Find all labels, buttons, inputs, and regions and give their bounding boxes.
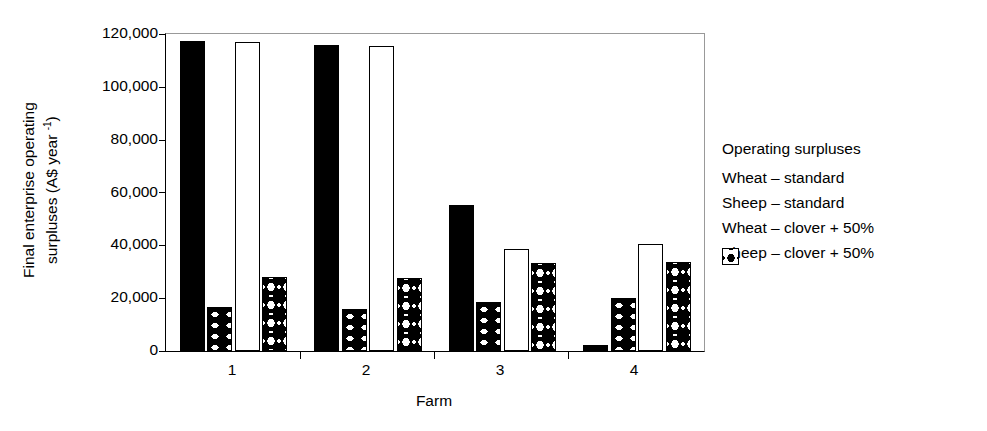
bar-farm-2-series-3 (369, 46, 394, 351)
y-tick-mark (159, 298, 166, 299)
bar-farm-4-series-4 (666, 262, 691, 351)
x-tick-mark (568, 351, 569, 359)
legend-item-sheep-clover[interactable]: Sheep – clover + 50% (722, 240, 980, 265)
plot-area (165, 33, 705, 352)
x-tick-label-farm-4: 4 (630, 361, 639, 379)
bar-farm-3-series-1 (449, 205, 474, 351)
legend-item-wheat-standard[interactable]: Wheat – standard (722, 165, 980, 190)
bar-farm-3-series-3 (504, 249, 529, 351)
x-tick-label-farm-1: 1 (228, 361, 237, 379)
bar-farm-1-series-2 (207, 307, 232, 351)
y-tick-label: 100,000 (58, 77, 158, 95)
y-tick-mark (159, 245, 166, 246)
bar-farm-2-series-1 (314, 45, 339, 351)
bar-farm-3-series-2 (476, 302, 501, 351)
y-axis-title-line1: Final enterprise operating (19, 102, 38, 278)
y-axis-tick-labels: 0 20,000 40,000 60,000 80,000 100,000 12… (58, 0, 158, 431)
bar-farm-1-series-3 (235, 42, 260, 351)
legend: Operating surpluses Wheat – standard She… (722, 140, 980, 265)
chart-figure: Final enterprise operating surpluses (A$… (0, 0, 987, 431)
x-axis-title: Farm (165, 392, 703, 410)
bar-farm-1-series-1 (180, 41, 205, 351)
legend-item-wheat-clover[interactable]: Wheat – clover + 50% (722, 215, 980, 240)
y-tick-label: 40,000 (58, 235, 158, 253)
y-axis-title-exponent: -1 (42, 121, 53, 130)
legend-item-label: Wheat – clover + 50% (722, 219, 874, 237)
y-tick-label: 20,000 (58, 288, 158, 306)
y-tick-mark (159, 140, 166, 141)
bar-farm-3-series-4 (531, 263, 556, 351)
legend-item-label: Sheep – clover + 50% (722, 244, 874, 262)
legend-title: Operating surpluses (722, 140, 980, 158)
legend-swatch-icon (722, 248, 739, 265)
bar-farm-4-series-1 (583, 345, 608, 351)
y-tick-mark (159, 351, 166, 352)
y-tick-label: 60,000 (58, 183, 158, 201)
bar-farm-2-series-4 (397, 278, 422, 351)
x-tick-mark (300, 351, 301, 359)
legend-item-sheep-standard[interactable]: Sheep – standard (722, 190, 980, 215)
y-tick-mark (159, 87, 166, 88)
bar-farm-4-series-3 (638, 244, 663, 351)
legend-item-label: Sheep – standard (722, 194, 844, 212)
y-tick-label: 120,000 (58, 24, 158, 42)
y-tick-mark (159, 34, 166, 35)
x-tick-label-farm-2: 2 (362, 361, 371, 379)
legend-item-label: Wheat – standard (722, 169, 844, 187)
y-tick-label: 80,000 (58, 130, 158, 148)
bar-farm-4-series-2 (611, 298, 636, 351)
bar-farm-1-series-4 (262, 277, 287, 351)
x-tick-mark (434, 351, 435, 359)
y-tick-label: 0 (58, 341, 158, 359)
bar-farm-2-series-2 (342, 309, 367, 351)
x-tick-label-farm-3: 3 (496, 361, 505, 379)
y-tick-mark (159, 192, 166, 193)
